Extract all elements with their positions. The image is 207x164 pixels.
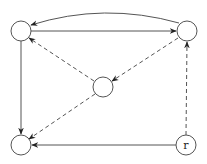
- edge-c-bl: [29, 94, 95, 139]
- edge-tr-tl: [31, 13, 179, 25]
- node-r-label: r: [183, 139, 189, 152]
- node-bottom-left: [11, 135, 31, 155]
- node-top-right: [177, 21, 197, 41]
- edge-r-tr: [186, 42, 187, 135]
- graph-diagram: r: [0, 0, 207, 164]
- edge-tr-c: [112, 38, 178, 81]
- node-top-left: [11, 21, 31, 41]
- node-center: [93, 77, 113, 97]
- edge-c-tl: [29, 38, 94, 81]
